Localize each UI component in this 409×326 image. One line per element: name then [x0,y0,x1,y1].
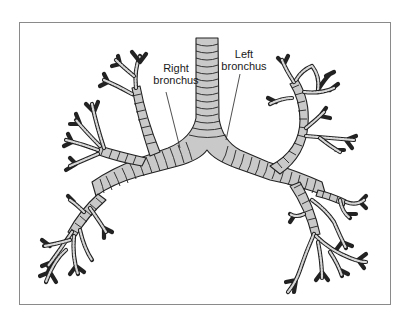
bronchial-tree-illustration [0,0,409,326]
left-upper-twigs [268,56,356,152]
right-upper-branches [96,86,160,166]
right-bronchus-label-line1: Right [146,62,206,74]
left-lower-twigs [286,196,366,292]
trachea [92,38,326,196]
right-lower-twigs [40,196,112,282]
right-bronchus-label: Right bronchus [146,62,206,86]
right-bronchus-label-line2: bronchus [146,74,206,86]
left-bronchus-label: Left bronchus [214,48,274,72]
left-upper-branches [270,80,308,174]
left-bronchus-label-line1: Left [214,48,274,60]
left-bronchus-label-line2: bronchus [214,60,274,72]
left-bronchus-leader-line [226,74,240,140]
right-bronchus-leader-line [166,92,180,148]
